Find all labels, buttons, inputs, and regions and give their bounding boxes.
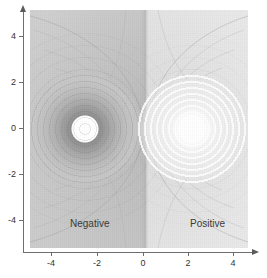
y-tick-label: 0 [11, 123, 16, 133]
positive-charge-singularity [136, 73, 248, 185]
x-tick-label: 0 [140, 258, 145, 268]
y-axis-line [23, 12, 24, 252]
y-tick-mark [19, 128, 23, 129]
y-tick-label: 2 [11, 77, 16, 87]
y-tick-mark [19, 174, 23, 175]
y-tick-mark [19, 36, 23, 37]
negative-region-label: Negative [70, 218, 109, 229]
y-tick-label: -2 [8, 169, 16, 179]
x-axis-line [23, 252, 253, 253]
y-tick-mark [19, 82, 23, 83]
x-tick-label: -4 [47, 258, 55, 268]
y-tick-label: 4 [11, 31, 16, 41]
contour-plot-canvas: Negative Positive [30, 10, 248, 248]
x-tick-label: 2 [185, 258, 190, 268]
figure-root: Negative Positive -4-2024 420-2-4 [0, 0, 267, 278]
x-tick-label: 4 [230, 258, 235, 268]
x-tick-mark [188, 252, 189, 256]
x-tick-label: -2 [93, 258, 101, 268]
x-tick-mark [233, 252, 234, 256]
positive-region-label: Positive [190, 218, 225, 229]
y-tick-label: -4 [8, 215, 16, 225]
x-tick-mark [143, 252, 144, 256]
arrow-right-icon [252, 249, 259, 255]
x-tick-mark [97, 252, 98, 256]
arrow-up-icon [20, 5, 26, 12]
y-tick-mark [19, 220, 23, 221]
x-tick-mark [51, 252, 52, 256]
